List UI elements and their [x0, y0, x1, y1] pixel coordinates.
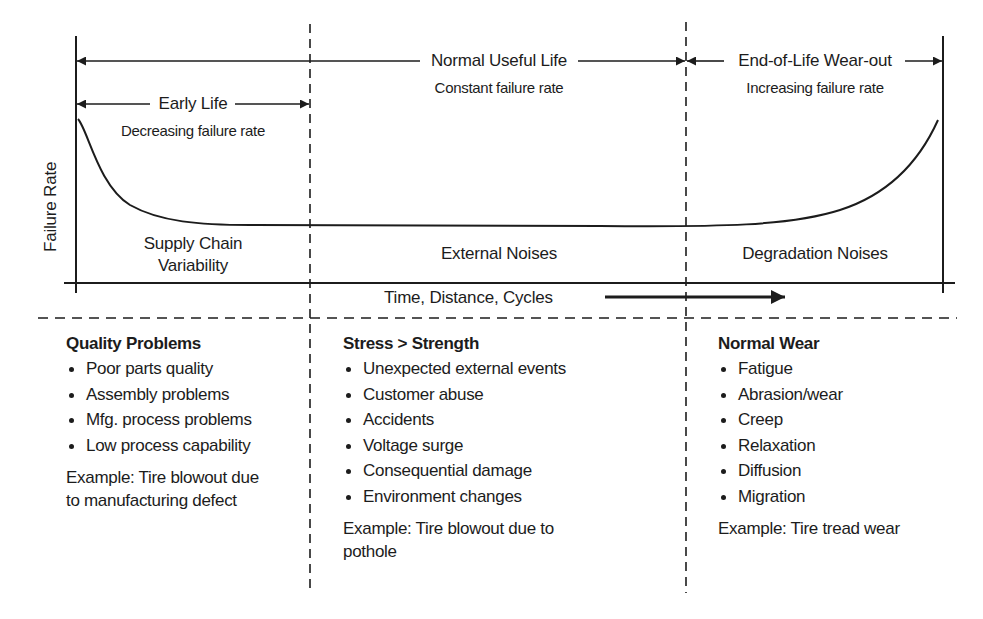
- cause-column-stress-strength: Stress > Strength Unexpected external ev…: [343, 331, 566, 563]
- cause-list-item: Creep: [718, 407, 900, 433]
- cause-heading: Stress > Strength: [343, 331, 566, 356]
- cause-example-line: Example: Tire tread wear: [718, 517, 900, 540]
- noise-label-useful-life: External Noises: [441, 243, 557, 265]
- cause-example-line: to manufacturing defect: [66, 489, 259, 512]
- noise-label-wearout: Degradation Noises: [742, 243, 888, 265]
- noise-label-line: External Noises: [441, 243, 557, 265]
- cause-list-item: Abrasion/wear: [718, 382, 900, 408]
- cause-list-item: Mfg. process problems: [66, 407, 259, 433]
- cause-heading: Normal Wear: [718, 331, 900, 356]
- cause-list-item: Fatigue: [718, 356, 900, 382]
- cause-example-line: Example: Tire blowout due: [66, 466, 259, 489]
- phase-title-end-of-life: End-of-Life Wear-out: [734, 52, 895, 69]
- cause-list-item: Diffusion: [718, 458, 900, 484]
- y-axis-label: Failure Rate: [42, 162, 59, 252]
- cause-list-item: Accidents: [343, 407, 566, 433]
- cause-list: Fatigue Abrasion/wear Creep Relaxation D…: [718, 356, 900, 509]
- cause-list-item: Environment changes: [343, 484, 566, 510]
- cause-list-item: Assembly problems: [66, 382, 259, 408]
- cause-example: Example: Tire tread wear: [718, 517, 900, 540]
- cause-list: Unexpected external events Customer abus…: [343, 356, 566, 509]
- cause-list-item: Relaxation: [718, 433, 900, 459]
- cause-list-item: Customer abuse: [343, 382, 566, 408]
- cause-list-item: Low process capability: [66, 433, 259, 459]
- cause-list-item: Poor parts quality: [66, 356, 259, 382]
- cause-column-normal-wear: Normal Wear Fatigue Abrasion/wear Creep …: [718, 331, 900, 540]
- cause-list: Poor parts quality Assembly problems Mfg…: [66, 356, 259, 458]
- phase-subtitle-normal-useful-life: Constant failure rate: [435, 80, 564, 95]
- noise-label-line: Supply Chain: [144, 233, 243, 255]
- cause-example: Example: Tire blowout due to manufacturi…: [66, 466, 259, 512]
- cause-example-line: Example: Tire blowout due to: [343, 517, 566, 540]
- noise-label-line: Degradation Noises: [742, 243, 888, 265]
- phase-subtitle-end-of-life: Increasing failure rate: [746, 80, 883, 95]
- cause-list-item: Unexpected external events: [343, 356, 566, 382]
- phase-title-early-life: Early Life: [155, 95, 232, 112]
- x-axis-label: Time, Distance, Cycles: [384, 289, 553, 306]
- cause-example-line: pothole: [343, 540, 566, 563]
- cause-list-item: Migration: [718, 484, 900, 510]
- cause-column-quality-problems: Quality Problems Poor parts quality Asse…: [66, 331, 259, 512]
- cause-list-item: Voltage surge: [343, 433, 566, 459]
- noise-label-line: Variability: [144, 255, 243, 277]
- cause-list-item: Consequential damage: [343, 458, 566, 484]
- cause-example: Example: Tire blowout due to pothole: [343, 517, 566, 563]
- cause-heading: Quality Problems: [66, 331, 259, 356]
- noise-label-early-life: Supply Chain Variability: [144, 233, 243, 277]
- phase-subtitle-early-life: Decreasing failure rate: [121, 123, 265, 138]
- phase-title-normal-useful-life: Normal Useful Life: [427, 52, 571, 69]
